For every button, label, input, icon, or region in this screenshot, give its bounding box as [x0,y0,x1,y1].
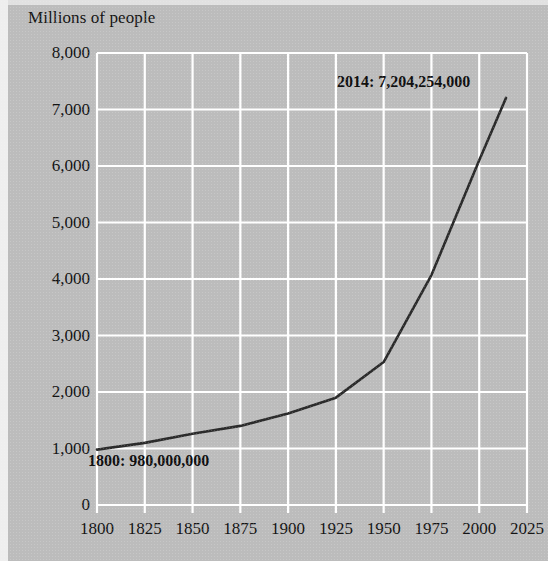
x-tick-label: 1850 [176,519,210,539]
x-tick-label: 2000 [462,519,496,539]
population-line-series [97,98,506,450]
x-tick-label: 1950 [367,519,401,539]
annotation-end-value: 2014: 7,204,254,000 [337,73,470,91]
x-tick-label: 1900 [271,519,305,539]
x-tick-label: 1875 [223,519,257,539]
x-tick-label: 2025 [510,519,544,539]
x-tick-label: 1825 [128,519,162,539]
annotation-start-value: 1800: 980,000,000 [88,452,209,470]
horizontal-gridlines [97,53,527,505]
x-tick-label: 1975 [414,519,448,539]
x-axis-tick-marks [97,505,527,513]
x-tick-label: 1925 [319,519,353,539]
population-chart: Millions of people 8,0007,0006,0005,0004… [0,0,548,561]
x-tick-label: 1800 [80,519,114,539]
